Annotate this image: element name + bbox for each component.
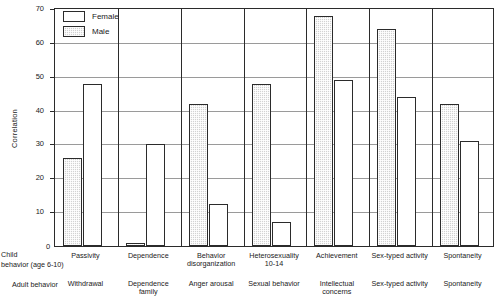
cat-child-line1-5: Sex-typed activity: [372, 251, 428, 260]
cat-adult-line1-5: Sex-typed activity: [372, 279, 428, 288]
y-tick-label-30: 30: [14, 140, 44, 148]
bar-female-0: [83, 84, 102, 247]
group-separator-3: [306, 9, 307, 246]
row-header-child-line1: Child: [1, 251, 17, 259]
category-label-adult-6: Spontaneity: [423, 280, 499, 288]
group-separator-1: [181, 9, 182, 246]
bar-female-5: [397, 97, 416, 246]
cat-child-line2-3: 10-14: [265, 259, 283, 268]
bar-male-5: [377, 29, 396, 246]
legend-label-female: Female: [92, 12, 119, 21]
bar-male-2: [189, 104, 208, 246]
legend-swatch-female-icon: [63, 11, 85, 22]
bar-male-0: [63, 158, 82, 246]
cat-adult-line1-3: Sexual behavior: [248, 279, 300, 288]
y-tick-label-20: 20: [14, 174, 44, 182]
group-separator-2: [244, 9, 245, 246]
legend-item-female: Female: [63, 11, 119, 22]
bar-female-3: [272, 222, 291, 246]
group-separator-0: [118, 9, 119, 246]
cat-adult-line1-0: Withdrawal: [68, 279, 104, 288]
cat-child-line1-6: Spontaneity: [444, 251, 482, 260]
gridline-60: [55, 43, 493, 44]
gridline-30: [55, 144, 493, 145]
y-tick-label-50: 50: [14, 73, 44, 81]
cat-child-line1-0: Passivity: [71, 251, 99, 260]
category-label-child-6: Spontaneity: [423, 252, 499, 260]
y-tick-label-zero: 0: [46, 243, 50, 251]
gridline-50: [55, 77, 493, 78]
bar-female-4: [334, 80, 353, 246]
y-tick-label-10: 10: [14, 208, 44, 216]
bar-male-6: [440, 104, 459, 246]
y-tick-label-40: 40: [14, 107, 44, 115]
bar-female-2: [209, 204, 228, 246]
cat-adult-line2-1: family: [139, 287, 158, 296]
cat-adult-line2-4: concerns: [322, 287, 351, 296]
legend: Female Male: [63, 11, 119, 37]
bar-male-3: [252, 84, 271, 247]
bar-male-4: [314, 16, 333, 246]
legend-item-male: Male: [63, 26, 119, 37]
gridline-20: [55, 178, 493, 179]
cat-child-line1-1: Dependence: [128, 251, 169, 260]
y-tick-label-70: 70: [14, 5, 44, 13]
cat-adult-line1-6: Spontaneity: [444, 279, 482, 288]
cat-adult-line1-2: Anger arousal: [189, 279, 234, 288]
gridline-40: [55, 111, 493, 112]
y-tick-label-60: 60: [14, 39, 44, 47]
bar-female-6: [460, 141, 479, 246]
legend-swatch-male-icon: [63, 26, 85, 37]
plot-area: [54, 8, 494, 247]
cat-child-line2-2: disorganization: [187, 259, 235, 268]
legend-label-male: Male: [92, 27, 109, 36]
bar-female-1: [146, 144, 165, 246]
cat-child-line1-4: Achievement: [316, 251, 358, 260]
row-header-child-line2: behavior (age 6-10): [1, 261, 64, 269]
gridline-10: [55, 212, 493, 213]
chart-page: Correlation 70605040302010 Female Male C…: [0, 0, 499, 302]
bar-male-1: [126, 243, 145, 246]
group-separator-5: [432, 9, 433, 246]
group-separator-4: [369, 9, 370, 246]
